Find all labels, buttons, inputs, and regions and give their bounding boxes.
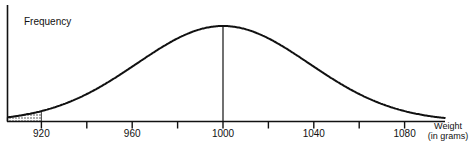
x-tick-label: 960 bbox=[124, 128, 141, 139]
x-axis-label-line1: Weight bbox=[418, 121, 473, 131]
y-axis-label: Frequency bbox=[24, 16, 71, 27]
x-axis-label: Weight (in grams) bbox=[418, 121, 473, 141]
x-tick-label: 920 bbox=[33, 128, 50, 139]
x-tick-label: 1080 bbox=[393, 128, 415, 139]
x-tick-label: 1000 bbox=[212, 128, 234, 139]
normal-curve bbox=[7, 26, 445, 118]
x-tick-label: 1040 bbox=[303, 128, 325, 139]
x-axis-label-line2: (in grams) bbox=[418, 131, 473, 141]
